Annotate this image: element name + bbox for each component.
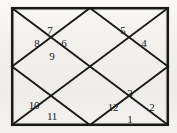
house-number-12: 12 (108, 102, 119, 113)
house-number-1: 1 (127, 114, 132, 125)
house-number-9: 9 (49, 51, 54, 62)
house-number-3: 3 (127, 88, 132, 99)
house-number-8: 8 (34, 38, 39, 49)
house-number-5: 5 (120, 25, 125, 36)
chart-line-art (0, 0, 177, 133)
house-number-6: 6 (61, 38, 66, 49)
house-number-10: 10 (29, 100, 40, 111)
kundali-chart: 1 2 3 4 5 6 7 8 9 10 11 12 (0, 0, 177, 133)
house-number-11: 11 (47, 111, 57, 122)
house-number-4: 4 (141, 38, 146, 49)
house-number-7: 7 (47, 25, 52, 36)
house-number-2: 2 (149, 102, 154, 113)
